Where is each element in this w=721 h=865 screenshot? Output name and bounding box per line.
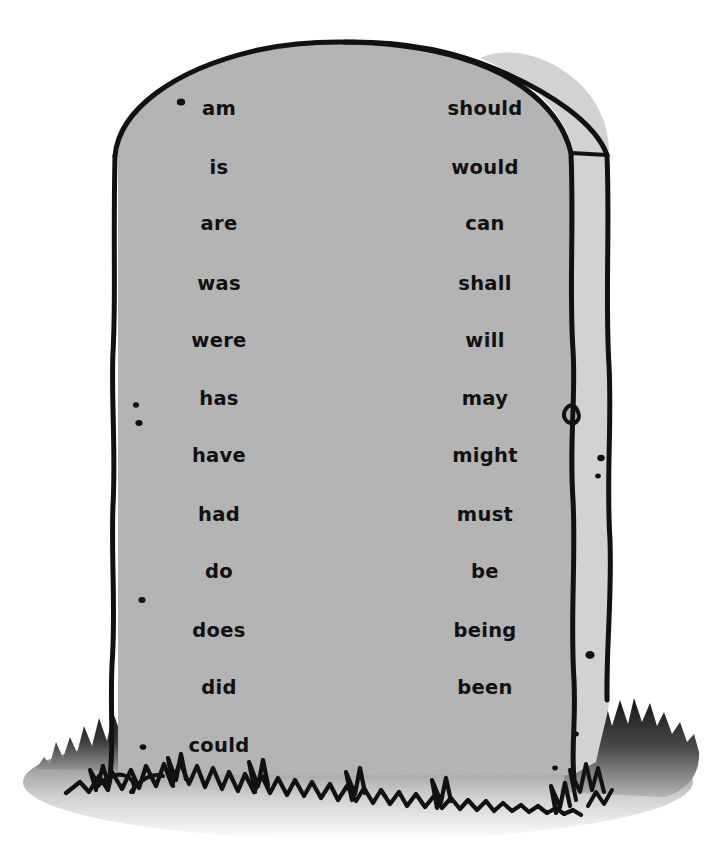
verb-word-right-4: will — [465, 329, 504, 352]
stone-speckle — [595, 474, 601, 479]
verb-word-right-7: must — [457, 503, 513, 526]
verb-word-right-2: can — [465, 212, 505, 235]
verb-word-right-6: might — [452, 444, 518, 467]
stone-speckle — [552, 766, 558, 771]
verb-word-left-4: were — [191, 329, 246, 352]
verb-word-left-8: do — [205, 560, 233, 583]
verb-word-left-2: are — [201, 212, 238, 235]
verb-word-left-3: was — [197, 272, 241, 295]
stone-speckle — [133, 402, 139, 407]
verb-word-right-3: shall — [458, 272, 512, 295]
verb-word-right-9: being — [453, 619, 516, 642]
tombstone-illustration: amisarewaswerehashavehaddodoesdidcould s… — [0, 0, 721, 865]
verb-word-right-5: may — [462, 387, 509, 410]
verb-word-left-5: has — [199, 387, 239, 410]
tombstone-svg: amisarewaswerehashavehaddodoesdidcould s… — [0, 0, 721, 865]
stone-speckle — [138, 597, 145, 603]
verb-word-left-11: could — [189, 734, 250, 757]
stone-speckle — [140, 744, 147, 750]
verb-word-right-1: would — [451, 156, 518, 179]
stone-speckle — [177, 98, 185, 105]
verb-word-left-1: is — [210, 156, 229, 179]
stone-speckle — [597, 455, 604, 461]
verb-word-left-7: had — [198, 503, 240, 526]
stone-speckle — [135, 420, 142, 426]
stone-speckle — [585, 651, 594, 659]
verb-word-right-8: be — [471, 560, 499, 583]
verb-word-right-10: been — [457, 676, 513, 699]
verb-word-left-6: have — [192, 444, 246, 467]
verb-word-left-0: am — [202, 97, 236, 120]
verb-word-left-9: does — [192, 619, 245, 642]
verb-word-right-0: should — [447, 97, 522, 120]
verb-word-left-10: did — [201, 676, 237, 699]
